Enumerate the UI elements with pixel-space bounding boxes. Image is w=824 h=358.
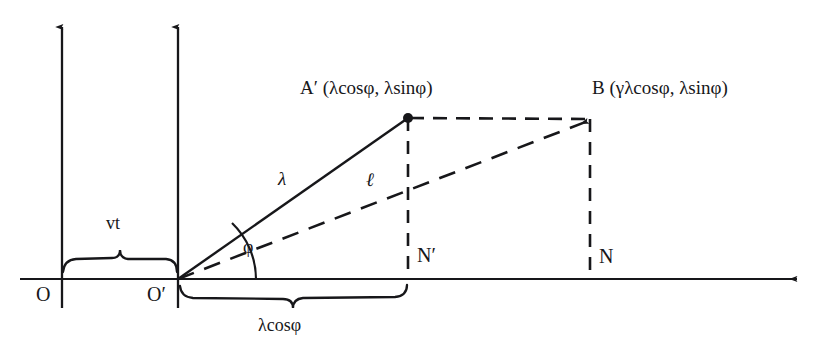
label-origin-O-prime: O′: [147, 284, 166, 304]
label-point-A-prime-coords: A′ (λcosφ, λsinφ): [300, 78, 433, 97]
label-foot-N-prime: N′: [417, 245, 436, 265]
point-marker-A-prime: [403, 113, 413, 123]
label-brace-lambda-cos-phi: λcosφ: [258, 316, 301, 334]
diagram-canvas: A′ (λcosφ, λsinφ) B (γλcosφ, λsinφ) λ ℓ …: [0, 0, 824, 358]
label-foot-N: N: [599, 246, 613, 266]
label-brace-vt: vt: [106, 214, 120, 232]
segment-ell-line: [178, 121, 588, 279]
brace-lambda-cos-phi: [180, 285, 407, 308]
label-angle-phi: φ: [243, 238, 253, 256]
label-origin-O: O: [36, 284, 50, 304]
brace-vt: [63, 250, 177, 272]
label-segment-ell: ℓ: [366, 170, 374, 189]
label-segment-lambda: λ: [278, 169, 286, 188]
segment-A-prime-to-B: [410, 118, 590, 119]
label-point-B-coords: B (γλcosφ, λsinφ): [592, 78, 728, 97]
segment-lambda-line: [178, 118, 408, 279]
geometry-svg: [0, 0, 824, 358]
